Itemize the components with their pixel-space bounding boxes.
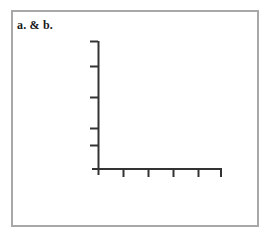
figure-border	[11, 10, 259, 227]
figure-label: a. & b.	[17, 18, 53, 32]
